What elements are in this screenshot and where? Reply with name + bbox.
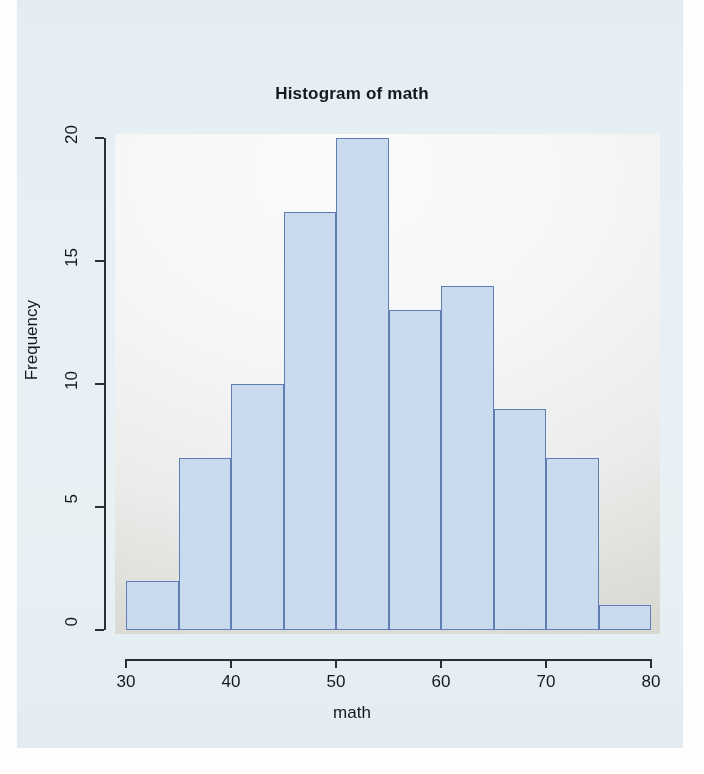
page-title: Histogram of math xyxy=(0,84,704,104)
page-root: Histogram of math 05101520 304050607080 … xyxy=(0,0,704,774)
x-axis-tick xyxy=(335,659,337,668)
y-axis-tick xyxy=(95,260,104,262)
x-axis-tick xyxy=(440,659,442,668)
x-axis-tick xyxy=(230,659,232,668)
x-axis-title: math xyxy=(0,703,704,723)
y-axis-tick xyxy=(95,506,104,508)
histogram-bar xyxy=(599,605,652,630)
plot-area xyxy=(126,138,651,630)
histogram-bar xyxy=(441,286,494,630)
histogram-bar xyxy=(284,212,337,630)
y-axis-tick-label: 10 xyxy=(62,371,88,390)
y-axis-tick xyxy=(95,629,104,631)
y-axis-tick-label: 15 xyxy=(62,248,88,267)
x-axis-tick-label: 60 xyxy=(418,672,464,692)
x-axis-tick-label: 30 xyxy=(103,672,149,692)
histogram-bar xyxy=(231,384,284,630)
histogram-bar xyxy=(494,409,547,630)
x-axis-tick xyxy=(545,659,547,668)
x-axis-tick-label: 50 xyxy=(313,672,359,692)
histogram-bar xyxy=(179,458,232,630)
histogram-bar xyxy=(389,310,442,630)
x-axis-tick-label: 40 xyxy=(208,672,254,692)
histogram-bar xyxy=(336,138,389,630)
x-axis-tick-label: 70 xyxy=(523,672,569,692)
y-axis-title: Frequency xyxy=(22,300,42,380)
x-axis-tick xyxy=(125,659,127,668)
y-axis-tick xyxy=(95,137,104,139)
x-axis-line xyxy=(126,659,651,661)
y-axis-line xyxy=(104,138,106,630)
y-axis-tick-label: 0 xyxy=(62,617,88,626)
y-axis-tick xyxy=(95,383,104,385)
histogram-bar xyxy=(126,581,179,630)
histogram-bar xyxy=(546,458,599,630)
y-axis-tick-label: 20 xyxy=(62,125,88,144)
x-axis-tick xyxy=(650,659,652,668)
y-axis-tick-label: 5 xyxy=(62,494,88,503)
histogram-figure: Histogram of math 05101520 304050607080 … xyxy=(0,0,704,774)
x-axis-tick-label: 80 xyxy=(628,672,674,692)
